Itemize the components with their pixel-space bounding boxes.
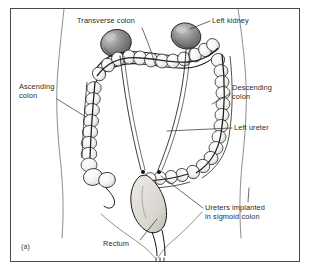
label-descending-colon: Descending colon [232,84,272,101]
figure-root: Transverse colon Left kidney Ascending c… [0,0,312,276]
leader-ascending-colon [57,99,86,117]
descending-colon [184,51,232,181]
ascending-colon [81,82,116,209]
label-transverse-colon: Transverse colon [77,17,135,26]
label-rectum: Rectum [103,240,129,249]
left-kidney [168,20,203,52]
label-left-ureter: Left ureter [234,124,269,133]
label-left-kidney: Left kidney [212,17,249,26]
panel-caption: (a) [21,243,30,252]
leader-ureters-implanted-2 [248,188,249,202]
anatomical-illustration [0,0,312,276]
right-ureter [120,56,141,170]
label-ascending-colon: Ascending colon [19,83,54,100]
right-ureter-edge [124,56,145,170]
appendix [104,188,115,208]
label-ureters-implanted-in-sigmoid-colon: Ureters implanted in sigmoid colon [205,204,265,221]
